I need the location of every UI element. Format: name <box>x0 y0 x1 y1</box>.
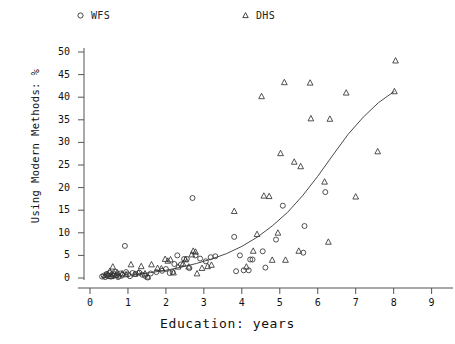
data-point-dhs <box>326 239 332 244</box>
data-point-dhs <box>307 80 313 85</box>
scatter-plot-figure: WFS DHS Using Modern Methods: % Educatio… <box>0 0 455 344</box>
data-point-wfs <box>260 249 265 254</box>
data-point-wfs <box>302 224 307 229</box>
data-point-dhs <box>283 257 289 262</box>
plot-canvas <box>0 0 455 344</box>
data-point-dhs <box>194 270 200 275</box>
data-point-wfs <box>175 253 180 258</box>
axes-group <box>78 48 453 294</box>
data-point-dhs <box>375 148 381 153</box>
data-point-dhs <box>149 261 155 266</box>
data-point-wfs <box>190 196 195 201</box>
data-point-dhs <box>250 248 256 253</box>
data-point-dhs <box>269 257 275 262</box>
data-point-dhs <box>128 261 134 266</box>
data-point-dhs <box>209 262 215 267</box>
series-points-dhs <box>102 58 398 279</box>
fit-curve-group <box>134 91 395 274</box>
data-point-wfs <box>198 256 203 261</box>
data-point-dhs <box>296 248 302 253</box>
data-point-dhs <box>244 264 250 269</box>
data-point-dhs <box>291 159 297 164</box>
data-point-dhs <box>254 231 260 236</box>
data-point-wfs <box>274 237 279 242</box>
data-point-dhs <box>393 58 399 63</box>
data-point-dhs <box>327 116 333 121</box>
data-point-wfs <box>263 265 268 270</box>
data-point-dhs <box>231 208 237 213</box>
data-point-dhs <box>298 163 304 168</box>
data-point-wfs <box>234 269 239 274</box>
data-point-dhs <box>308 115 314 120</box>
data-point-dhs <box>266 193 272 198</box>
data-point-dhs <box>281 79 287 84</box>
data-point-dhs <box>138 263 144 268</box>
fit-trend-curve <box>134 91 395 274</box>
data-point-dhs <box>343 90 349 95</box>
data-point-wfs <box>122 243 127 248</box>
data-point-dhs <box>278 150 284 155</box>
data-point-dhs <box>275 230 281 235</box>
data-point-dhs <box>353 194 359 199</box>
data-point-dhs <box>259 93 265 98</box>
data-point-wfs <box>237 253 242 258</box>
data-point-wfs <box>323 190 328 195</box>
data-point-wfs <box>232 234 237 239</box>
data-point-dhs <box>392 88 398 93</box>
data-point-wfs <box>280 203 285 208</box>
data-point-dhs <box>110 264 116 269</box>
data-point-dhs <box>322 179 328 184</box>
data-point-dhs <box>261 193 267 198</box>
data-point-dhs <box>199 265 205 270</box>
